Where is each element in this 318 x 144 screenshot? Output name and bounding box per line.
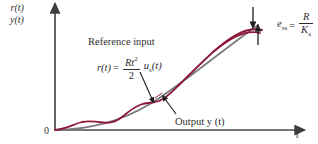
reference-equation-lhs: r(t) [97,62,111,73]
y-axis-label-output: y(t) [10,14,24,26]
ess-symbol: ess [277,18,287,32]
y-axis-label-group: r(t) y(t) [10,2,24,26]
ess-numerator: R [301,12,311,22]
ess-denominator: Ka [299,25,313,39]
reference-equation-step-function: us(t) [144,60,162,74]
ess-denominator-subscript: a [308,30,311,38]
step-response-figure: r(t) y(t) 0 t Reference input r(t) = Rt2… [0,0,318,144]
output-caption: Output y (t) [175,116,225,127]
reference-equation-exponent: 2 [134,55,138,63]
reference-input-equation: r(t) = Rt2 2 us(t) [97,54,162,81]
reference-equation-denominator: 2 [127,71,136,81]
steady-state-error-equation: ess = R Ka [277,12,315,39]
output-leader [165,99,176,114]
reference-input-caption: Reference input [88,36,155,47]
reference-equation-equals: = [113,62,119,73]
x-axis-label: t [296,130,299,141]
step-argument: (t) [152,60,162,71]
ess-subscript: ss [282,24,287,32]
ess-equals: = [289,20,295,31]
origin-label: 0 [44,126,49,137]
y-axis-label-reference: r(t) [10,2,24,14]
reference-equation-numerator: Rt2 [123,54,140,68]
reference-equation-fraction: Rt2 2 [123,54,140,81]
ess-fraction: R Ka [299,12,313,39]
